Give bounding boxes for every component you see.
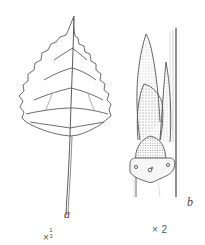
leaf-drawing <box>8 8 118 223</box>
leaf-illustration <box>8 8 118 223</box>
scale-fraction-a: 13 <box>49 227 53 239</box>
scale-label-a: ×13 <box>43 227 53 243</box>
bud-illustration <box>118 22 188 202</box>
bud-drawing <box>118 22 188 202</box>
panel-label-a: a <box>64 208 70 220</box>
scale-label-b: × 2 <box>152 225 168 235</box>
scale-denominator: 3 <box>49 233 53 239</box>
panel-label-b: b <box>187 196 193 208</box>
